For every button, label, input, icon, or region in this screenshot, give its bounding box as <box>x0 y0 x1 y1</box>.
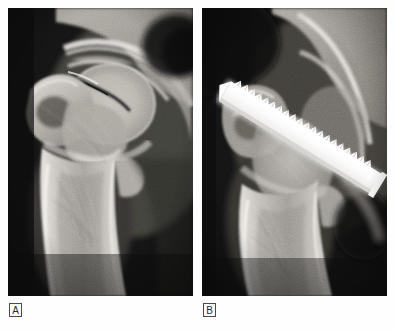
xray-image-a <box>8 8 193 296</box>
xray-image-b <box>202 8 387 296</box>
radiograph-panel-b <box>202 8 387 296</box>
panel-label-b: B <box>203 303 216 317</box>
figure-root: A B <box>0 0 394 332</box>
panel-label-a: A <box>9 303 22 317</box>
radiograph-panel-a <box>8 8 193 296</box>
